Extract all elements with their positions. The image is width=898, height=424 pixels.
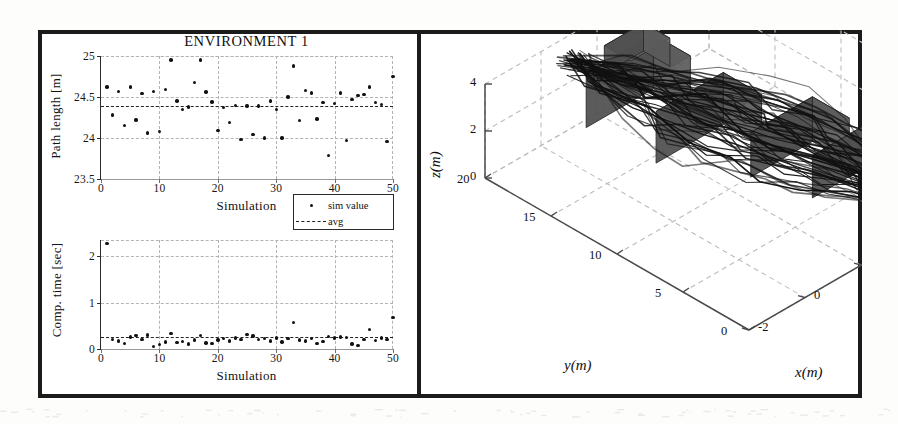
data-point	[146, 333, 149, 336]
data-point	[251, 334, 254, 337]
gridline-vertical	[276, 56, 277, 179]
data-point	[134, 334, 137, 337]
data-point	[280, 136, 283, 139]
data-point	[152, 345, 155, 348]
data-point	[140, 92, 143, 95]
data-point	[391, 316, 394, 319]
data-point	[333, 102, 336, 105]
gridline-horizontal	[101, 256, 393, 257]
data-point	[350, 342, 353, 345]
gridline-vertical	[276, 240, 277, 349]
data-point	[228, 121, 231, 124]
data-point	[105, 85, 108, 88]
y-tick-label: 1	[89, 297, 95, 309]
legend-item-avg: avg	[294, 213, 393, 229]
data-point	[199, 58, 202, 61]
grid-frame-top	[101, 240, 393, 241]
data-point	[275, 108, 278, 111]
y-tick-mark	[97, 97, 101, 98]
data-point	[339, 335, 342, 338]
data-point	[304, 89, 307, 92]
data-point	[292, 64, 295, 67]
data-point	[275, 336, 278, 339]
data-point	[187, 342, 190, 345]
x-tick-label-3d: -2	[758, 320, 768, 335]
y-tick-mark	[97, 256, 101, 257]
x-tick-label: 10	[153, 182, 165, 194]
page-title: ENVIRONMENT 1	[100, 33, 393, 50]
gridline-horizontal	[101, 303, 393, 304]
data-point	[310, 337, 313, 340]
data-point	[193, 81, 196, 84]
data-point	[292, 321, 295, 324]
data-point	[310, 91, 313, 94]
y-tick-mark	[97, 303, 101, 304]
z-tick-label-3d: 2	[470, 122, 476, 137]
data-point	[345, 139, 348, 142]
trajectory-3d-canvas	[421, 30, 862, 398]
data-point	[385, 338, 388, 341]
data-point	[164, 88, 167, 91]
data-point	[298, 338, 301, 341]
data-point	[257, 104, 260, 107]
gridline-horizontal	[101, 97, 393, 98]
chart-comp-time: 01201020304050 Simulation Comp. time [se…	[100, 240, 393, 350]
grid-frame-top	[101, 56, 393, 57]
x-tick-label-3d: 0	[814, 288, 820, 303]
x-tick-label: 20	[212, 182, 224, 194]
y-tick-label: 2	[89, 250, 95, 262]
data-point	[158, 130, 161, 133]
y-tick-label: 25	[83, 50, 95, 62]
data-point	[181, 108, 184, 111]
y-tick-mark	[97, 138, 101, 139]
y-tick-label-3d: 20	[457, 172, 470, 187]
data-point	[117, 90, 120, 93]
data-point	[216, 129, 219, 132]
gridline-vertical	[335, 56, 336, 179]
y-tick-label: 24.5	[74, 91, 95, 103]
x-tick-label: 0	[98, 352, 104, 364]
data-point	[251, 133, 254, 136]
legend: sim value avg	[293, 194, 394, 230]
gridline-vertical	[159, 240, 160, 349]
data-point	[362, 338, 365, 341]
data-point	[245, 333, 248, 336]
data-point	[315, 342, 318, 345]
y-axis-title-time: Comp. time [sec]	[49, 225, 65, 355]
gridline-horizontal	[101, 138, 393, 139]
grid-frame-right	[392, 240, 393, 349]
data-point	[321, 340, 324, 343]
data-point	[105, 242, 108, 245]
data-point	[175, 341, 178, 344]
chart-trajectory-3d: z(m) y(m) x(m) 05101520-20246024	[421, 30, 862, 398]
y-tick-label: 23.5	[74, 173, 95, 185]
data-point	[380, 103, 383, 106]
z-axis-title: z(m)	[427, 151, 444, 178]
x-tick-label: 40	[329, 182, 341, 194]
data-point	[181, 340, 184, 343]
data-point	[269, 99, 272, 102]
data-point	[140, 338, 143, 341]
data-point	[391, 75, 394, 78]
data-point	[380, 336, 383, 339]
data-point	[327, 154, 330, 157]
y-tick-label-3d: 10	[589, 248, 602, 263]
data-point	[204, 341, 207, 344]
data-point	[193, 338, 196, 341]
data-point	[152, 90, 155, 93]
data-point	[117, 339, 120, 342]
z-tick-label-3d: 0	[470, 169, 476, 184]
legend-dashed-line-icon	[294, 221, 328, 222]
data-point	[175, 99, 178, 102]
y-axis-title-path: Path length [m]	[48, 56, 64, 176]
gridline-vertical	[159, 56, 160, 179]
x-tick-label: 50	[387, 352, 399, 364]
y-axis-title: y(m)	[564, 357, 591, 374]
data-point	[111, 113, 114, 116]
average-line	[101, 337, 393, 338]
data-point	[164, 340, 167, 343]
data-point	[210, 100, 213, 103]
data-point	[239, 338, 242, 341]
data-point	[216, 338, 219, 341]
data-point	[158, 343, 161, 346]
